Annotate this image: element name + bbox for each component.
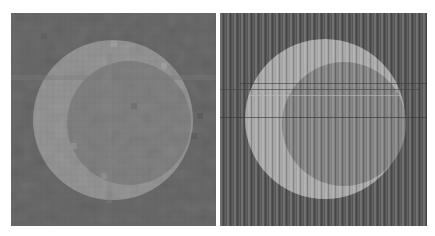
reconstruction-image-right: Reconstruction of circular phantom with … [220, 13, 427, 226]
left-image-canvas [11, 13, 216, 226]
right-image-canvas [220, 13, 427, 226]
vertical-streak-artifacts [220, 13, 427, 226]
reconstruction-image-left: Noisy pixelated reconstruction of circul… [11, 13, 216, 226]
